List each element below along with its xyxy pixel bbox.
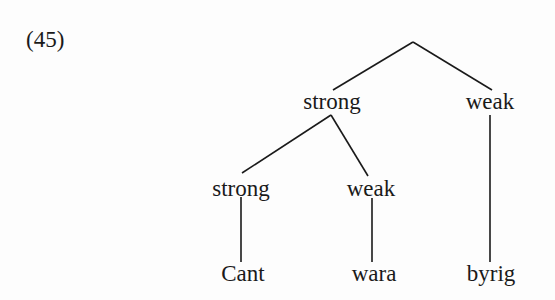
node-level2-strong: strong — [212, 177, 270, 200]
tree-edges — [0, 0, 555, 300]
edge-root-strong — [333, 42, 413, 90]
node-level1-strong: strong — [303, 90, 361, 113]
leaf-cant: Cant — [221, 262, 264, 285]
edge-strong-weak — [331, 115, 368, 176]
edge-strong-strong — [242, 115, 331, 173]
leaf-wara: wara — [352, 262, 397, 285]
leaf-byrig: byrig — [467, 262, 516, 285]
node-level1-weak: weak — [466, 90, 515, 113]
node-level2-weak: weak — [347, 177, 396, 200]
edge-root-weak — [413, 42, 492, 90]
